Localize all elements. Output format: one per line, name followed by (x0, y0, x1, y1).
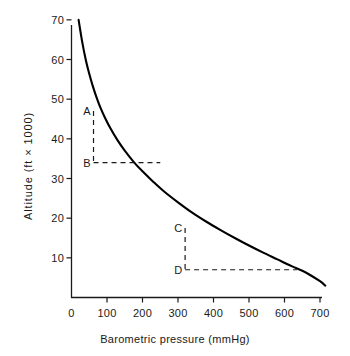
annotation-label-b: B (83, 157, 92, 169)
x-axis-ticks (107, 298, 320, 303)
y-axis-ticks (67, 20, 72, 258)
x-tick-label: 600 (275, 307, 294, 319)
x-tick-label: 700 (311, 307, 330, 319)
y-tick-label: 40 (36, 133, 64, 145)
x-tick-label: 0 (68, 307, 74, 319)
annotation-label-d: D (174, 264, 184, 276)
y-tick-label: 70 (36, 14, 64, 26)
annotation-label-c: C (174, 222, 184, 234)
axes (67, 20, 323, 303)
x-tick-label: 400 (204, 307, 223, 319)
y-axis-title: Altitude (ft × 1000) (22, 76, 34, 256)
x-tick-label: 300 (169, 307, 188, 319)
x-axis-title: Barometric pressure (mmHg) (0, 333, 350, 345)
y-tick-label: 20 (36, 212, 64, 224)
y-tick-label: 30 (36, 173, 64, 185)
y-tick-label: 60 (36, 54, 64, 66)
x-tick-label: 500 (240, 307, 259, 319)
annotation-label-a: A (83, 105, 92, 117)
x-tick-label: 200 (133, 307, 152, 319)
y-tick-label: 10 (36, 252, 64, 264)
x-tick-label: 100 (98, 307, 117, 319)
guide-lines (94, 111, 297, 270)
data-curve (79, 20, 326, 286)
barometric-pressure-altitude-chart: 0100200300400500600700 10203040506070 AB… (0, 0, 350, 356)
y-tick-label: 50 (36, 93, 64, 105)
